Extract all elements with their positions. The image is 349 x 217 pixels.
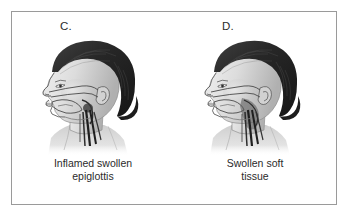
panel-d-caption-line1: Swollen soft xyxy=(174,157,336,170)
panel-c: C. xyxy=(12,12,174,204)
panel-c-caption-line1: Inflamed swollen xyxy=(12,157,174,170)
head-profile-illustration-d xyxy=(180,26,330,156)
panel-c-caption: Inflamed swollen epiglottis xyxy=(12,157,174,183)
panel-c-figure xyxy=(12,26,174,156)
panel-d-caption: Swollen soft tissue xyxy=(174,157,336,183)
panel-d-figure xyxy=(174,26,336,156)
panel-container: C. xyxy=(12,12,336,204)
panel-d-caption-line2: tissue xyxy=(174,170,336,183)
mouth-c xyxy=(46,100,52,106)
mouth-d xyxy=(208,100,214,106)
illustration-root: C. xyxy=(0,0,349,217)
panel-c-caption-line2: epiglottis xyxy=(12,170,174,183)
head-profile-illustration-c xyxy=(18,26,168,156)
panel-d: D. xyxy=(174,12,336,204)
illustration-frame: C. xyxy=(11,11,337,205)
swollen-epiglottis-mass-c xyxy=(83,104,93,113)
